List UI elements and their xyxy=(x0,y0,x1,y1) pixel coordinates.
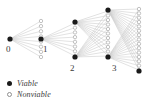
nonviable-node xyxy=(106,18,109,21)
nonviable-node xyxy=(106,45,109,48)
node-label: 1 xyxy=(43,44,48,54)
nonviable-node xyxy=(137,16,140,19)
nonviable-node xyxy=(137,20,140,23)
graph-edge xyxy=(75,11,108,57)
graph-edge xyxy=(108,40,139,58)
edge-layer xyxy=(10,9,139,70)
nonviable-node xyxy=(137,55,140,58)
nonviable-node xyxy=(39,24,42,27)
filled-dot-icon xyxy=(7,81,12,86)
graph-edge xyxy=(41,23,75,39)
viable-nonviable-tree-diagram: 0123 Viable Nonviable xyxy=(0,0,146,108)
nonviable-node xyxy=(137,38,140,41)
viable-node xyxy=(72,19,77,24)
nonviable-node xyxy=(137,7,140,10)
nonviable-node xyxy=(137,60,140,63)
nonviable-node xyxy=(39,19,42,22)
nonviable-node xyxy=(39,30,42,33)
nonviable-node xyxy=(137,42,140,45)
nonviable-node xyxy=(137,51,140,54)
nonviable-node xyxy=(106,27,109,30)
node-label: 2 xyxy=(70,63,75,73)
open-circle-icon xyxy=(7,92,12,97)
nonviable-node xyxy=(137,64,140,67)
nonviable-node xyxy=(106,23,109,26)
nonviable-node xyxy=(73,31,76,34)
nonviable-node xyxy=(73,26,76,29)
viable-node xyxy=(38,36,43,41)
nonviable-node xyxy=(137,12,140,15)
viable-node xyxy=(136,68,141,73)
nonviable-node xyxy=(137,25,140,28)
nonviable-node xyxy=(137,33,140,36)
viable-node xyxy=(7,36,12,41)
graph-edge xyxy=(108,10,139,70)
nonviable-node xyxy=(137,47,140,50)
graph-edge xyxy=(10,21,41,39)
legend-label-nonviable: Nonviable xyxy=(17,90,51,99)
legend-item-nonviable: Nonviable xyxy=(7,89,146,100)
nonviable-node xyxy=(73,50,76,53)
nonviable-node xyxy=(73,35,76,38)
viable-node xyxy=(72,54,77,59)
nonviable-node xyxy=(73,45,76,48)
graph-edge xyxy=(75,22,108,43)
nonviable-node xyxy=(73,40,76,43)
legend: Viable Nonviable xyxy=(0,78,146,108)
graph-edge xyxy=(10,39,41,57)
legend-item-viable: Viable xyxy=(7,78,146,89)
graph-edge xyxy=(108,9,139,10)
graph-edge xyxy=(108,18,139,57)
node-label: 3 xyxy=(112,63,117,73)
nonviable-node xyxy=(106,36,109,39)
nonviable-node xyxy=(106,50,109,53)
nonviable-node xyxy=(106,41,109,44)
nonviable-node xyxy=(137,29,140,32)
nonviable-node xyxy=(39,55,42,58)
legend-label-viable: Viable xyxy=(17,79,38,88)
viable-node xyxy=(105,7,110,12)
node-label: 0 xyxy=(6,44,11,54)
nonviable-node xyxy=(106,14,109,17)
viable-node xyxy=(105,54,110,59)
nonviable-node xyxy=(106,32,109,35)
